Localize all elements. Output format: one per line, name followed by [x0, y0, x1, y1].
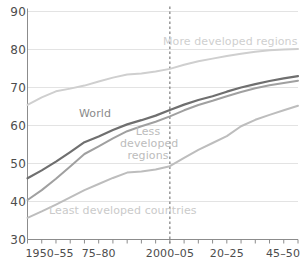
x-tick-label-4: 45–50	[266, 248, 300, 259]
series-label-world: World	[79, 108, 111, 120]
y-tick-60: 60	[0, 120, 26, 132]
y-tick-label-60: 60	[2, 120, 26, 132]
series-label-least-developed-countries: Least developed countries	[49, 205, 197, 217]
y-tick-90: 90	[0, 6, 26, 18]
series-line-more-developed-regions	[28, 49, 299, 105]
y-tick-label-40: 40	[2, 196, 26, 208]
y-tick-label-80: 80	[2, 44, 26, 56]
y-tick-label-30: 30	[2, 234, 26, 246]
x-tick-label-1: 75–80	[82, 248, 116, 259]
y-tick-30: 30	[0, 234, 26, 246]
x-axis-ticks	[28, 240, 299, 244]
y-tick-50: 50	[0, 158, 26, 170]
y-tick-40: 40	[0, 196, 26, 208]
y-tick-label-90: 90	[2, 6, 26, 18]
x-tick-label-2: 2000–05	[146, 248, 194, 259]
x-tick-label-3: 20–25	[210, 248, 244, 259]
x-tick-label-0: 1950–55	[26, 248, 74, 259]
y-tick-80: 80	[0, 44, 26, 56]
series-label-more-developed-regions: More developed regions	[163, 36, 298, 48]
y-tick-label-70: 70	[2, 82, 26, 94]
y-tick-label-50: 50	[2, 158, 26, 170]
life-expectancy-line-chart: 30405060708090 1950–5575–802000–0520–254…	[0, 0, 304, 265]
y-tick-70: 70	[0, 82, 26, 94]
series-label-less-developed-regions: Less developed regions	[120, 126, 176, 162]
